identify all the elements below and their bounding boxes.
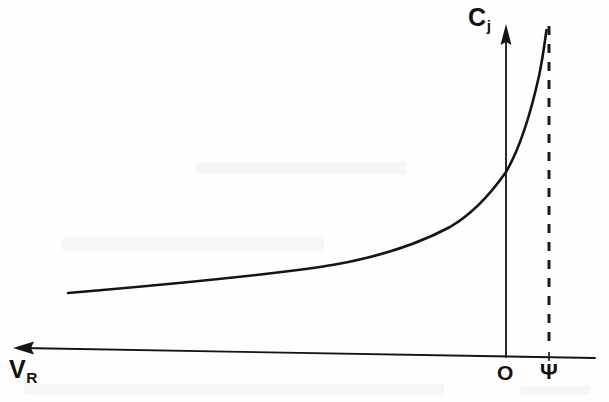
x-axis — [13, 342, 595, 359]
y-axis-arrowhead-icon — [501, 24, 512, 45]
origin-label: O — [497, 362, 513, 383]
x-axis-arrowhead-icon — [13, 342, 34, 355]
y-axis-subscript: j — [487, 17, 492, 34]
y-axis-label: Cj — [468, 5, 491, 30]
x-axis-line — [22, 348, 595, 358]
x-axis-subscript: R — [26, 369, 38, 386]
asymptote-label: Ψ — [540, 361, 558, 383]
x-axis-label: VR — [9, 357, 37, 382]
y-axis — [501, 24, 512, 357]
figure-canvas: Cj VR O Ψ — [0, 0, 609, 402]
x-axis-symbol: V — [9, 355, 26, 383]
y-axis-symbol: C — [468, 3, 486, 31]
capacitance-curve — [68, 30, 547, 293]
plot-area — [0, 0, 609, 402]
